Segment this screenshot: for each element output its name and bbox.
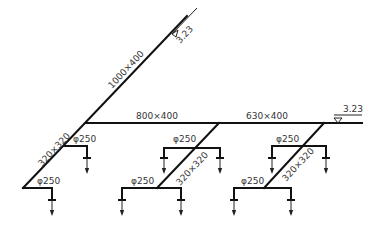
left-sub-riser-size-label: 320×320 xyxy=(36,131,72,169)
outlet-left-lower-size: φ250 xyxy=(37,176,60,186)
outlet-right-upper-size: φ250 xyxy=(276,134,299,144)
outlet-left-upper-size: φ250 xyxy=(73,134,96,144)
elevation-marker-right xyxy=(334,115,362,123)
outlet-left-upper xyxy=(64,146,91,174)
outlet-mid-lower xyxy=(118,188,185,216)
outlet-right-lower xyxy=(230,188,295,216)
outlet-mid-upper-size: φ250 xyxy=(173,134,196,144)
main-riser-size-label: 1000×400 xyxy=(106,49,146,91)
elevation-label-right: 3.23 xyxy=(343,104,363,114)
outlet-right-lower-size: φ250 xyxy=(241,176,264,186)
main-branch-right-size-label: 630×400 xyxy=(246,111,288,121)
main-branch-left-size-label: 800×400 xyxy=(136,111,178,121)
mid-sub-riser-size-label: 320×320 xyxy=(174,150,210,188)
outlet-mid-lower-size: φ250 xyxy=(131,176,154,186)
duct-diagram: 3.23 1000×400 800×400 630×400 3.23 φ250 … xyxy=(0,0,379,233)
outlet-left-lower xyxy=(23,188,56,216)
